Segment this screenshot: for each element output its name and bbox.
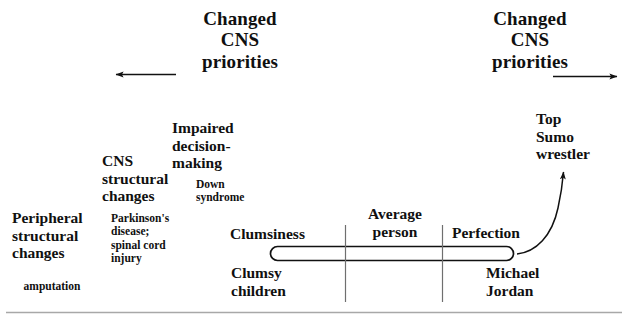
example-parkinsons-spinal-cord-injury: Parkinson's disease; spinal cord injury — [111, 212, 197, 266]
term-michael-jordan: Michael Jordan — [486, 264, 568, 299]
term-cns-structural-changes: CNS structural changes — [102, 152, 184, 205]
example-amputation: amputation — [6, 280, 98, 293]
heading-right-changed-cns-priorities: Changed CNS priorities — [466, 8, 594, 72]
term-top-sumo-wrestler: Top Sumo wrestler — [536, 110, 620, 163]
term-perfection: Perfection — [452, 224, 538, 242]
cns-priorities-diagram: Changed CNS priorities Changed CNS prior… — [0, 0, 628, 321]
curved-arrow-icon — [517, 172, 564, 254]
term-clumsy-children: Clumsy children — [231, 264, 317, 299]
heading-left-changed-cns-priorities: Changed CNS priorities — [176, 8, 304, 72]
term-peripheral-structural-changes: Peripheral structural changes — [12, 209, 104, 262]
term-impaired-decision-making: Impaired decision- making — [172, 119, 262, 172]
continuum-capsule-bar — [271, 247, 514, 261]
example-down-syndrome: Down syndrome — [196, 178, 282, 205]
term-average-person: Average person — [352, 205, 438, 240]
term-clumsiness: Clumsiness — [230, 225, 334, 243]
